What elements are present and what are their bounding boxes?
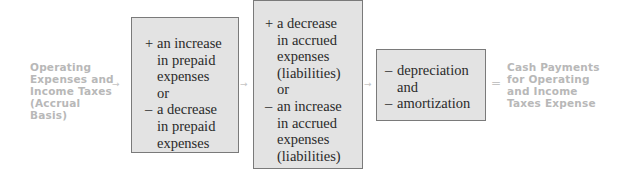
box-text: an increase [277, 98, 342, 114]
box-line: in accrued [265, 32, 362, 49]
box-line: in prepaid [145, 118, 238, 135]
minus-sign: – [385, 62, 397, 79]
box-text: in accrued [277, 32, 337, 48]
label-line: and Income [507, 85, 617, 97]
plus-sign: + [265, 15, 277, 32]
box-line: –amortization [385, 95, 485, 112]
minus-sign: – [145, 101, 157, 118]
operating-expenses-accrual-label: Operating Expenses and Income Taxes (Acc… [30, 61, 120, 121]
box-line: or [145, 85, 238, 102]
box-line: +an increase [145, 35, 238, 52]
minus-sign: – [265, 98, 277, 115]
equals-sign-icon: = [491, 76, 501, 90]
box-line: and [385, 79, 485, 96]
label-line: Income Taxes [30, 85, 120, 97]
box-line: expenses [265, 131, 362, 148]
box-line: in accrued [265, 115, 362, 132]
label-line: Taxes Expense [507, 97, 617, 109]
box-line: –depreciation [385, 62, 485, 79]
box-text: or [277, 81, 289, 97]
box-line: (liabilities) [265, 65, 362, 82]
box-text: amortization [397, 95, 470, 111]
depreciation-amortization-box: –depreciation and –amortization [376, 49, 486, 121]
box-text: expenses [277, 48, 329, 64]
box-text: and [397, 79, 418, 95]
box-text: or [157, 85, 169, 101]
box-line: –a decrease [145, 101, 238, 118]
box-text: an increase [157, 35, 222, 51]
box-line: expenses [145, 135, 238, 152]
box-text: (liabilities) [277, 148, 341, 164]
box-line: in prepaid [145, 52, 238, 69]
label-line: Expenses and [30, 73, 120, 85]
label-line: Operating [30, 61, 120, 73]
box-text: expenses [157, 135, 209, 151]
box-line: –an increase [265, 98, 362, 115]
box-text: in accrued [277, 115, 337, 131]
box-text: expenses [157, 68, 209, 84]
box-line: or [265, 81, 362, 98]
arrow-right-icon: → [112, 80, 120, 89]
arrow-right-icon: → [240, 80, 248, 89]
box-text: in prepaid [157, 52, 215, 68]
arrow-right-icon: → [364, 80, 372, 89]
prepaid-expenses-adjustment-box: +an increase in prepaid expenses or –a d… [131, 17, 239, 153]
box-text: in prepaid [157, 118, 215, 134]
label-line: Cash Payments [507, 61, 617, 73]
box-line: expenses [265, 48, 362, 65]
box-text: a decrease [277, 15, 337, 31]
plus-sign: + [145, 35, 157, 52]
minus-sign: – [385, 95, 397, 112]
cash-payments-label: Cash Payments for Operating and Income T… [507, 61, 617, 109]
box-text: depreciation [397, 62, 469, 78]
label-line: for Operating [507, 73, 617, 85]
box-text: expenses [277, 131, 329, 147]
box-text: (liabilities) [277, 65, 341, 81]
accrued-expenses-adjustment-box: +a decrease in accrued expenses (liabili… [253, 0, 363, 169]
box-text: a decrease [157, 101, 217, 117]
box-line: (liabilities) [265, 148, 362, 165]
label-line: (Accrual Basis) [30, 97, 120, 121]
box-line: expenses [145, 68, 238, 85]
box-line: +a decrease [265, 15, 362, 32]
